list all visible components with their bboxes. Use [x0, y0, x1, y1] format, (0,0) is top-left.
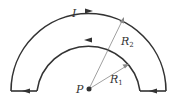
arrow-inner-left-icon	[84, 38, 92, 43]
r1-label: R1	[109, 73, 123, 87]
current-loop-diagram: I R2 R1 P	[0, 0, 175, 99]
current-label: I	[71, 7, 77, 20]
arrow-right-bottom-icon	[149, 89, 157, 94]
r2-label: R2	[120, 35, 134, 49]
point-p-dot	[87, 87, 92, 92]
inner-arc-wire	[37, 46, 140, 91]
point-p-label: P	[75, 83, 84, 96]
arrow-left-bottom-icon	[22, 89, 30, 94]
outer-arc-wire	[11, 14, 166, 91]
